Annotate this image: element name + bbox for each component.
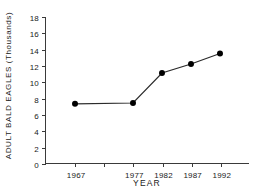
series-markers	[72, 51, 223, 107]
x-tick-mark-minor	[104, 163, 105, 167]
data-point	[159, 70, 165, 76]
x-tick-mark: 1992	[221, 163, 222, 167]
y-tick-label: 18	[30, 14, 39, 23]
data-point	[188, 61, 194, 67]
data-point	[130, 100, 136, 106]
x-tick-mark: 1987	[192, 163, 193, 167]
y-tick-label: 16	[30, 30, 39, 39]
data-point	[217, 51, 223, 57]
data-point	[72, 101, 78, 107]
y-tick-label: 6	[34, 112, 39, 121]
series-line	[75, 54, 220, 104]
x-tick-mark: 1982	[163, 163, 164, 167]
y-axis-title-container: ADULT BALD EAGLES (Thousands)	[0, 0, 18, 170]
y-axis-title: ADULT BALD EAGLES (Thousands)	[5, 11, 14, 158]
x-tick-mark: 1967	[75, 163, 76, 167]
x-axis-title: YEAR	[45, 178, 249, 188]
y-tick-label: 14	[30, 46, 39, 55]
y-tick-label: 12	[30, 63, 39, 72]
y-tick-label: 8	[34, 95, 39, 104]
y-tick-label: 4	[34, 128, 39, 137]
y-tick-label: 10	[30, 79, 39, 88]
y-tick-label: 2	[34, 144, 39, 153]
y-tick-label: 0	[34, 161, 39, 170]
data-series-layer	[46, 17, 249, 163]
bald-eagle-line-chart: ADULT BALD EAGLES (Thousands) 0246810121…	[0, 0, 263, 193]
x-tick-mark: 1977	[133, 163, 134, 167]
y-tick-mark: 0	[42, 164, 46, 165]
plot-area: 024681012141618 19671977198219871992	[45, 17, 249, 164]
